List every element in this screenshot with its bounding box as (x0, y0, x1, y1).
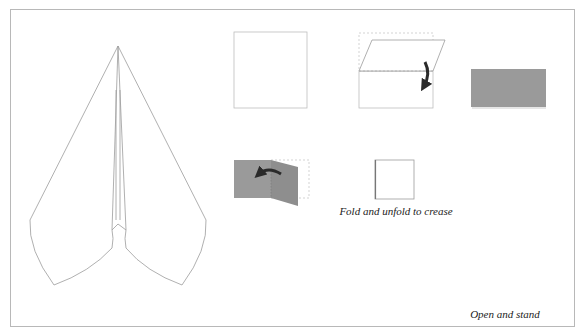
finished-model-illustration (30, 46, 206, 285)
fold-diagram (0, 0, 583, 336)
step-4-fold-left (234, 160, 309, 206)
step-1-square (234, 32, 307, 108)
caption-fold-and-unfold: Fold and unfold to crease (339, 205, 452, 217)
step-2-fold-down (359, 33, 445, 108)
caption-open-and-stand: Open and stand (470, 308, 540, 320)
step-3-folded-rectangle (471, 69, 546, 109)
step-5-square (375, 160, 414, 199)
